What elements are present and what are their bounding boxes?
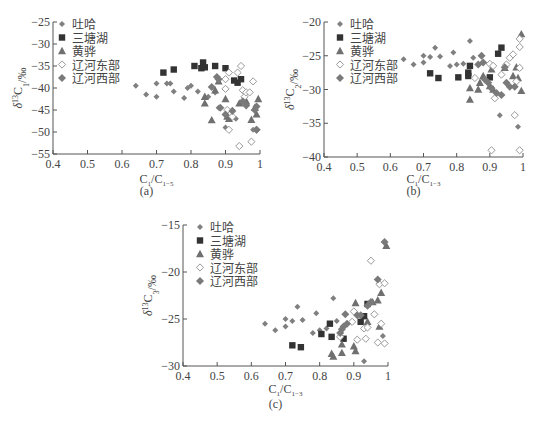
data-point: [421, 60, 427, 66]
data-point: [160, 69, 166, 75]
y-tick-label: −35: [302, 116, 321, 130]
x-tick-label: 1: [520, 160, 526, 174]
data-point: [495, 51, 501, 57]
data-point: [283, 316, 289, 322]
x-tick-label: 0.5: [80, 157, 95, 171]
x-tick-label: 0.9: [218, 157, 233, 171]
data-point: [262, 321, 268, 327]
data-point: [517, 87, 525, 94]
x-tick-label: 0.6: [244, 369, 259, 383]
data-point: [289, 342, 295, 348]
x-tick-label: 0.8: [184, 157, 199, 171]
data-point: [201, 99, 209, 106]
data-point: [171, 66, 177, 72]
legend: 吐哈三塘湖黄骅辽河东部辽河西部: [58, 18, 120, 86]
y-tick-label: −40: [302, 150, 321, 164]
data-point: [154, 81, 160, 87]
data-point: [300, 317, 306, 323]
x-tick-label: 1: [257, 157, 263, 171]
legend-marker: [197, 224, 203, 230]
legend-label: 吐哈: [350, 18, 374, 32]
data-point: [421, 53, 427, 59]
data-point: [202, 64, 208, 70]
x-tick-label: 0.6: [115, 157, 130, 171]
x-tick-label: 1: [385, 369, 391, 383]
figure-canvas: 0.40.50.60.70.80.91−25−30−35−40−45−50−55…: [0, 0, 543, 431]
data-point: [450, 49, 456, 55]
y-tick-label: −55: [31, 147, 50, 161]
legend-marker: [196, 250, 204, 257]
legend-label: 辽河东部: [350, 58, 398, 73]
legend-label: 黄骅: [72, 45, 96, 59]
data-point: [310, 330, 316, 336]
legend-label: 辽河西部: [210, 274, 258, 289]
data-point: [237, 62, 244, 69]
chart-caption: (c): [269, 397, 282, 411]
data-point: [427, 70, 433, 76]
legend-label: 黄骅: [210, 248, 234, 262]
data-point: [381, 340, 388, 347]
series-0: [401, 38, 521, 130]
data-point: [253, 126, 261, 134]
data-point: [254, 95, 262, 102]
data-point: [361, 358, 367, 364]
data-point: [498, 71, 505, 78]
data-point: [181, 95, 187, 101]
data-point: [437, 53, 443, 59]
legend-marker: [336, 74, 344, 82]
data-point: [497, 112, 503, 118]
data-point: [377, 288, 385, 295]
data-point: [374, 296, 382, 303]
chart-caption: (b): [407, 184, 421, 198]
data-point: [432, 45, 438, 51]
data-point: [327, 321, 333, 327]
data-point: [133, 83, 139, 89]
data-point: [362, 335, 369, 342]
data-point: [195, 89, 201, 95]
y-tick-label: −25: [31, 15, 50, 29]
data-point: [338, 349, 346, 356]
x-axis-label: C1/C1−3: [269, 382, 303, 398]
data-point: [435, 75, 441, 81]
data-point: [222, 95, 230, 102]
data-point: [352, 299, 360, 306]
x-tick-label: 0.8: [449, 160, 464, 174]
data-point: [471, 74, 478, 81]
series-1: [289, 301, 371, 351]
data-point: [354, 336, 361, 343]
x-tick-label: 0.5: [350, 160, 365, 174]
data-point: [467, 38, 473, 44]
y-tick-label: −20: [161, 265, 180, 279]
data-point: [328, 334, 334, 340]
legend-marker: [58, 47, 66, 54]
data-point: [272, 327, 278, 333]
legend-label: 三塘湖: [350, 31, 386, 46]
y-axis-label: δ13C3/‰: [141, 275, 161, 316]
legend-label: 吐哈: [210, 221, 234, 235]
legend: 吐哈三塘湖黄骅辽河东部辽河西部: [196, 221, 258, 289]
legend-marker: [58, 61, 65, 68]
y-tick-label: −30: [31, 37, 50, 51]
chart-a: 0.40.50.60.70.80.91−25−30−35−40−45−50−55…: [11, 15, 263, 198]
data-point: [466, 84, 474, 91]
x-tick-label: 0.9: [482, 160, 497, 174]
data-point: [294, 304, 300, 310]
legend-label: 辽河西部: [72, 71, 120, 86]
x-tick-label: 0.8: [312, 369, 327, 383]
y-tick-label: −25: [302, 49, 321, 63]
chart-b: 0.40.50.60.70.80.91−20−25−30−35−40吐哈三塘湖黄…: [283, 15, 526, 198]
legend-label: 吐哈: [72, 18, 96, 32]
data-point: [371, 311, 378, 318]
data-point: [470, 55, 476, 61]
y-tick-label: −50: [31, 125, 50, 139]
data-point: [222, 85, 229, 92]
data-point: [289, 318, 295, 324]
chart-caption: (a): [140, 184, 153, 198]
data-point: [498, 44, 504, 50]
y-tick-label: −15: [161, 218, 180, 232]
y-tick-label: −30: [161, 359, 180, 373]
data-point: [238, 76, 244, 82]
legend-label: 辽河东部: [210, 261, 258, 276]
data-point: [454, 62, 460, 68]
x-tick-label: 0.6: [383, 160, 398, 174]
